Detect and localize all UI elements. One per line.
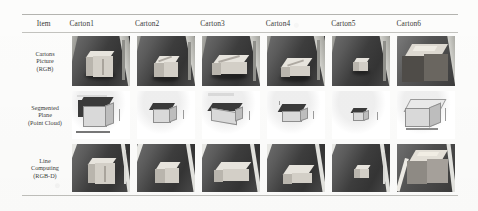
table-row: Segmented Plane (Point Cloud) <box>22 89 458 141</box>
segmented-plane-view <box>72 91 130 139</box>
segmented-plane-view <box>267 91 325 139</box>
line-computing-view <box>332 144 390 192</box>
row-label-line: Segmented <box>22 104 68 112</box>
row-label-line: Picture <box>22 57 68 65</box>
cell-r2c2 <box>133 91 198 139</box>
segmented-plane-view <box>332 91 390 139</box>
box-left-face <box>212 63 221 75</box>
row-label-line-computing: Line Computing (RGB-D) <box>22 157 68 180</box>
carton-box <box>212 55 250 77</box>
point-speckle <box>77 95 107 97</box>
box-left-face <box>402 56 424 82</box>
rail-post <box>253 41 256 81</box>
carton-photo <box>267 36 325 86</box>
cell-r2c3 <box>198 91 263 139</box>
plane-front <box>282 111 302 122</box>
header-carton2: Carton2 <box>131 19 196 28</box>
box-right-face <box>164 62 178 77</box>
carton-photo <box>397 36 455 86</box>
cell-r1c5 <box>328 36 393 86</box>
plane-side <box>105 102 114 126</box>
cell-r2c5 <box>328 91 393 139</box>
line-computing-view <box>137 144 195 192</box>
scale-tick <box>377 112 378 120</box>
row-label-segmented-plane: Segmented Plane (Point Cloud) <box>22 104 68 127</box>
box-right-face <box>359 62 368 71</box>
cell-r2c1 <box>68 91 133 139</box>
rail-post <box>122 40 125 80</box>
rail-post <box>383 152 385 184</box>
cell-r1c3 <box>198 36 263 86</box>
box-left-face <box>281 67 290 77</box>
table-row: Line Computing (RGB-D) <box>22 141 458 195</box>
cell-r1c1 <box>68 36 133 86</box>
row-label-line: (RGB) <box>22 65 68 73</box>
line-computing-view <box>72 144 130 192</box>
row-label-line: Line <box>22 157 68 165</box>
point-speckle <box>406 128 438 130</box>
header-item: Item <box>22 19 65 28</box>
carton-photo <box>72 36 130 86</box>
cell-r3c4 <box>263 144 328 192</box>
results-table: Item Carton1 Carton2 Carton3 Carton4 Car… <box>22 14 458 196</box>
box-tape <box>102 59 104 75</box>
box-left-face <box>154 63 164 77</box>
carton-photo <box>332 36 390 86</box>
carton-box <box>155 162 181 184</box>
plane-side <box>169 105 177 122</box>
plane-front <box>83 106 107 127</box>
box-right-face <box>360 169 369 178</box>
cell-r2c6 <box>393 91 458 139</box>
table-header-row: Item Carton1 Carton2 Carton3 Carton4 Car… <box>22 15 458 32</box>
row-label-line: (RGB-D) <box>22 172 68 180</box>
row-label-line: (Point Cloud) <box>22 119 68 127</box>
carton-box <box>402 44 450 84</box>
row-label-line: Computing <box>22 164 68 172</box>
header-carton4: Carton4 <box>262 19 327 28</box>
rail-post <box>124 150 126 184</box>
segmented-plane-view <box>397 91 455 139</box>
point-speckle <box>208 93 234 96</box>
carton-box <box>353 58 370 72</box>
cell-r3c3 <box>198 144 263 192</box>
plane-front <box>153 109 171 123</box>
scale-tick <box>119 109 120 121</box>
header-carton5: Carton5 <box>327 19 392 28</box>
rail-post <box>317 40 320 80</box>
plane-front <box>405 108 431 127</box>
figure-page: Item Carton1 Carton2 Carton3 Carton4 Car… <box>0 0 478 211</box>
line-computing-view <box>397 144 455 192</box>
segmented-plane-view <box>137 91 195 139</box>
cell-r3c1 <box>68 144 133 192</box>
cell-r1c2 <box>133 36 198 86</box>
header-carton6: Carton6 <box>393 19 458 28</box>
carton-box <box>214 162 252 184</box>
cell-r3c2 <box>133 144 198 192</box>
scale-tick <box>313 111 314 119</box>
rail-post <box>188 42 191 80</box>
table-row: Cartons Picture (RGB) <box>22 33 458 89</box>
row-label-line: Plane <box>22 111 68 119</box>
cell-r2c4 <box>263 91 328 139</box>
header-carton1: Carton1 <box>65 19 130 28</box>
carton-box <box>283 165 314 185</box>
box-tape <box>412 46 437 51</box>
carton-photo <box>202 36 260 86</box>
box-right-face <box>223 169 249 181</box>
carton-box <box>86 51 116 77</box>
row-label-cartons-picture: Cartons Picture (RGB) <box>22 50 68 73</box>
scale-tick <box>249 111 250 120</box>
box-right-face <box>424 54 448 81</box>
box-left-face <box>407 161 427 184</box>
scale-tick <box>279 101 280 105</box>
box-tape <box>416 152 438 156</box>
cell-r3c6 <box>393 144 458 192</box>
box-left-face <box>86 57 93 76</box>
carton-box <box>354 165 371 179</box>
line-computing-view <box>202 144 260 192</box>
carton-photo <box>137 36 195 86</box>
scale-tick <box>445 108 446 121</box>
header-carton3: Carton3 <box>196 19 261 28</box>
box-right-face <box>292 173 312 183</box>
box-left-face <box>88 164 95 183</box>
